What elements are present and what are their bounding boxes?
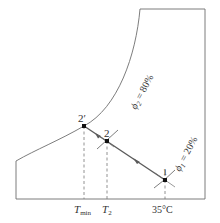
arrow-icon — [95, 133, 101, 139]
phi2-label: ϕ2 = 80% — [128, 73, 157, 112]
state-point-2prime — [82, 124, 86, 128]
point-label-2: 2 — [104, 127, 110, 139]
state-point-1 — [163, 178, 167, 182]
point-label-1: 1 — [163, 168, 167, 177]
state-point-2 — [105, 139, 109, 143]
phi1-label: ϕ1 = 20% — [172, 135, 201, 174]
point-label-2prime: 2′ — [78, 112, 86, 124]
psychrometric-diagram: 2′ 2 1 ϕ2 = 80% ϕ1 = 20% Tmin T2 35°C — [0, 0, 220, 223]
axis-label-35c: 35°C — [152, 204, 173, 215]
axis-label-t2: T2 — [102, 203, 112, 217]
axis-label-tmin: Tmin — [74, 203, 92, 217]
